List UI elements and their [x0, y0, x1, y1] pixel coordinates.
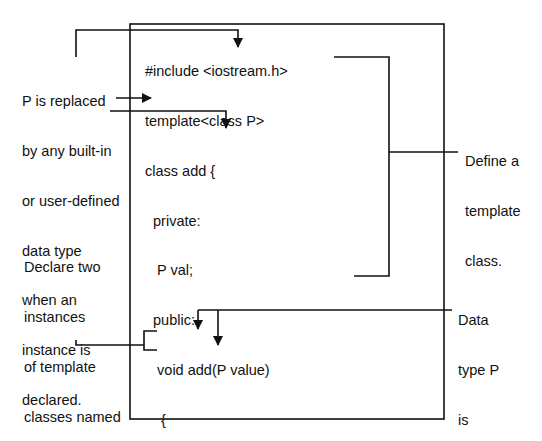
annotation-line: type P: [458, 362, 514, 379]
template-class-diagram: #include <iostream.h> template<class P> …: [0, 0, 542, 441]
code-line: private:: [145, 213, 291, 230]
code-listing: #include <iostream.h> template<class P> …: [145, 30, 291, 441]
define-template-bracket: [334, 57, 389, 276]
annotation-line: is: [458, 412, 514, 429]
annotation-line: Define a: [465, 153, 521, 170]
code-line: {: [145, 412, 291, 429]
annotation-line: or user-defined: [22, 193, 120, 210]
annotation-line: instances: [24, 309, 122, 326]
annotation-line: Data: [458, 312, 514, 329]
annotation-line: template: [465, 203, 521, 220]
annotation-line: class.: [465, 253, 521, 270]
annotation-line: P is replaced: [22, 93, 120, 110]
annotation-line: of template: [24, 359, 122, 376]
code-line: void add(P value): [145, 362, 291, 379]
annotation-line: Declare two: [24, 259, 122, 276]
annotation-data-type-replaced: Data type P is replaced by these data ty…: [458, 279, 514, 441]
annotation-declare-instances: Declare two instances of template classe…: [24, 226, 122, 441]
code-line: template<class P>: [145, 113, 291, 130]
annotation-line: classes named: [24, 409, 122, 426]
annotation-define-template: Define a template class.: [465, 120, 521, 303]
annotation-line: by any built-in: [22, 143, 120, 160]
code-line: #include <iostream.h>: [145, 63, 291, 80]
code-line: class add {: [145, 163, 291, 180]
code-line: P val;: [145, 262, 291, 279]
code-line: public:: [145, 312, 291, 329]
